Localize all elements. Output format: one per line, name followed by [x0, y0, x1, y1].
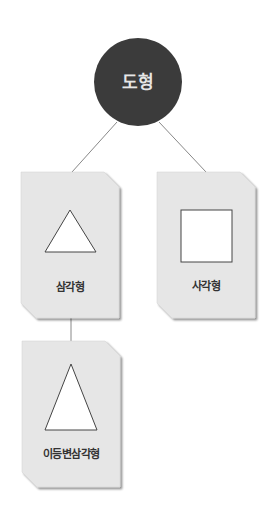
node-card-triangle[interactable]	[21, 172, 119, 318]
node-label-triangle: 삼각형	[21, 280, 119, 296]
node-card-square[interactable]	[157, 172, 255, 318]
connector-root-triangle	[72, 122, 117, 172]
node-card-isosceles[interactable]	[22, 341, 120, 487]
node-label-isosceles: 이등변삼각형	[22, 447, 120, 463]
root-node-label: 도형	[98, 71, 178, 93]
square-icon	[181, 210, 232, 262]
node-label-square: 사각형	[157, 279, 255, 295]
connector-root-square	[159, 122, 206, 172]
